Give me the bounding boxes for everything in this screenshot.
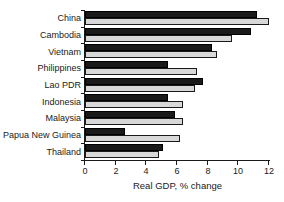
x-axis-tick: [145, 161, 146, 165]
x-axis-tick: [207, 161, 208, 165]
x-tick-label-4: 4: [136, 166, 156, 176]
category-label-papua-new-guinea: Papua New Guinea: [0, 130, 81, 141]
x-tick-label-2: 2: [106, 166, 126, 176]
x-axis-line: [84, 160, 270, 161]
y-axis-tick: [81, 43, 84, 44]
x-tick-label-6: 6: [167, 166, 187, 176]
y-axis-tick: [81, 127, 84, 128]
category-label-lao-pdr: Lao PDR: [0, 80, 81, 91]
x-tick-label-0: 0: [75, 166, 95, 176]
bar-malaysia-gray-series: [85, 118, 183, 125]
x-axis-tick: [84, 161, 85, 165]
bar-indonesia-gray-series: [85, 101, 183, 108]
x-axis-tick: [268, 161, 269, 165]
category-label-vietnam: Vietnam: [0, 47, 81, 58]
bar-vietnam-black-series: [85, 44, 212, 51]
bar-vietnam-gray-series: [85, 51, 217, 58]
bar-papua-new-guinea-black-series: [85, 128, 125, 135]
bar-thailand-black-series: [85, 144, 163, 151]
category-label-philippines: Philippines: [0, 63, 81, 74]
x-axis-tick: [237, 161, 238, 165]
bar-philippines-gray-series: [85, 68, 197, 75]
x-axis-tick: [176, 161, 177, 165]
category-label-cambodia: Cambodia: [0, 30, 81, 41]
x-tick-label-12: 12: [259, 166, 279, 176]
bar-thailand-gray-series: [85, 151, 159, 158]
category-label-indonesia: Indonesia: [0, 97, 81, 108]
category-label-thailand: Thailand: [0, 147, 81, 158]
bar-malaysia-black-series: [85, 111, 175, 118]
bar-cambodia-black-series: [85, 28, 251, 35]
bar-philippines-black-series: [85, 61, 168, 68]
y-axis-tick: [81, 27, 84, 28]
y-axis-tick: [81, 93, 84, 94]
bar-china-black-series: [85, 11, 257, 18]
bar-lao-pdr-gray-series: [85, 85, 195, 92]
bar-china-gray-series: [85, 18, 269, 25]
y-axis-tick: [81, 110, 84, 111]
y-axis-tick: [81, 143, 84, 144]
y-axis-tick: [81, 10, 84, 11]
y-axis-tick: [81, 60, 84, 61]
bar-papua-new-guinea-gray-series: [85, 135, 180, 142]
bar-indonesia-black-series: [85, 94, 168, 101]
category-label-malaysia: Malaysia: [0, 113, 81, 124]
category-label-china: China: [0, 13, 81, 24]
bar-cambodia-gray-series: [85, 35, 232, 42]
real-gdp-bar-chart: Real GDP, % change 024681012ChinaCambodi…: [0, 0, 284, 202]
x-tick-label-8: 8: [198, 166, 218, 176]
x-axis-tick: [115, 161, 116, 165]
y-axis-tick: [81, 77, 84, 78]
bar-lao-pdr-black-series: [85, 78, 203, 85]
x-axis-title: Real GDP, % change: [85, 180, 270, 191]
x-tick-label-10: 10: [228, 166, 248, 176]
